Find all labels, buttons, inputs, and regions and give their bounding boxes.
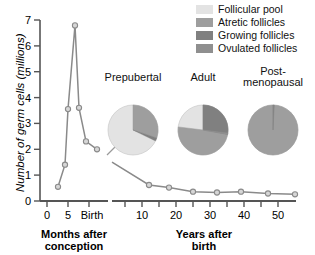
y-tick-label: 7 bbox=[25, 14, 31, 26]
pie-title-prepubertal: Prepubertal bbox=[98, 72, 168, 84]
pie-chart-postmenopausal bbox=[248, 105, 298, 155]
x-tick-label-months: Birth bbox=[81, 209, 104, 221]
line-path-years bbox=[112, 162, 295, 194]
x-tick-label-months: 5 bbox=[65, 209, 71, 221]
pie-chart-adult bbox=[178, 105, 228, 155]
x-tick-label-years: 30 bbox=[204, 209, 216, 221]
legend-swatch-follicular-pool bbox=[196, 5, 213, 14]
legend-swatch-atretic-follicles bbox=[196, 18, 213, 27]
x-axis-tick-labels-years: 10 20 30 40 50 bbox=[136, 209, 284, 221]
pie-title-postmenopausal-line2: menopausal bbox=[238, 77, 308, 89]
legend-item-atretic-follicles: Atretic follicles bbox=[196, 16, 315, 29]
legend-label-ovulated-follicles: Ovulated follicles bbox=[218, 43, 297, 54]
y-tick-label: 0 bbox=[25, 195, 31, 207]
germ-cell-figure: 0 1 2 3 4 5 6 7 0 5 Birth bbox=[0, 0, 315, 255]
series-line-years bbox=[112, 162, 298, 197]
legend-label-follicular-pool: Follicular pool bbox=[218, 4, 283, 15]
legend-swatch-growing-follicles bbox=[196, 31, 213, 40]
pie-slice-growing-follicles bbox=[203, 105, 228, 134]
x-axis-title-years-line2: birth bbox=[155, 240, 253, 252]
legend-label-atretic-follicles: Atretic follicles bbox=[218, 17, 285, 28]
legend-label-growing-follicles: Growing follicles bbox=[218, 30, 294, 41]
pie-chart-prepubertal bbox=[108, 105, 158, 155]
x-axis-tick-labels-months: 0 5 Birth bbox=[44, 209, 103, 221]
pie-title-adult: Adult bbox=[173, 72, 233, 84]
x-tick-label-months: 0 bbox=[44, 209, 50, 221]
x-axis-title-years-line1: Years after bbox=[155, 228, 253, 240]
x-tick-label-years: 50 bbox=[272, 209, 284, 221]
line-markers-years bbox=[146, 182, 297, 197]
legend-swatch-ovulated-follicles bbox=[196, 44, 213, 53]
legend-item-follicular-pool: Follicular pool bbox=[196, 3, 315, 16]
line-markers-months bbox=[55, 23, 99, 190]
x-tick-label-years: 10 bbox=[136, 209, 148, 221]
y-axis-label: Number of germ cells (millions) bbox=[14, 34, 26, 192]
x-axis-title-months-line1: Months after bbox=[25, 228, 123, 240]
y-axis-ticks bbox=[34, 20, 40, 201]
x-tick-label-years: 40 bbox=[238, 209, 250, 221]
legend: Follicular pool Atretic follicles Growin… bbox=[196, 3, 315, 55]
x-axis-title-months-line2: conception bbox=[25, 240, 123, 252]
legend-item-ovulated-follicles: Ovulated follicles bbox=[196, 42, 315, 55]
series-line-months bbox=[55, 23, 99, 190]
x-tick-label-years: 20 bbox=[170, 209, 182, 221]
legend-item-growing-follicles: Growing follicles bbox=[196, 29, 315, 42]
